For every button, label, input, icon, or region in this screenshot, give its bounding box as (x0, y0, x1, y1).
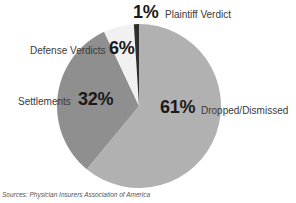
dropped-dismissed-label: Dropped/Dismissed (201, 106, 288, 116)
settlements-percent: 32% (78, 90, 113, 108)
defense-verdicts-percent: 6% (109, 39, 134, 57)
defense-verdicts-label: Defense Verdicts (30, 46, 106, 56)
plaintiff-verdict-percent: 1% (133, 3, 158, 21)
dropped-dismissed-percent: 61% (160, 98, 195, 116)
source-note: Sources: Physician Insurers Association … (2, 191, 150, 198)
settlements-label: Settlements (18, 97, 71, 107)
plaintiff-verdict-label: Plaintiff Verdict (165, 10, 231, 20)
